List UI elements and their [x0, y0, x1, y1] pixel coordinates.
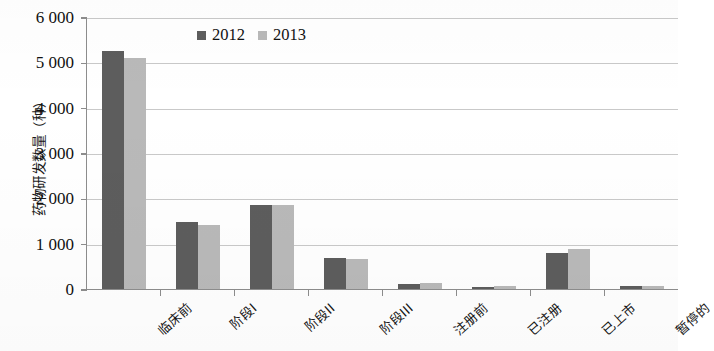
x-axis-label-1: 阶段I: [225, 298, 261, 333]
legend-label-2012: 2012: [212, 27, 245, 44]
x-axis-label-5: 已注册: [523, 298, 565, 339]
x-axis-label-0: 临床前: [153, 298, 195, 339]
x-axis-label-3: 阶段III: [375, 298, 417, 338]
x-axis-label-7: 暂停的: [671, 298, 713, 339]
bar-2012: [250, 205, 272, 289]
legend-item-2013: 2013: [258, 27, 306, 44]
legend-swatch-2013-icon: [258, 31, 267, 40]
bar-group: [605, 18, 679, 289]
y-axis-tick-label: 0: [66, 280, 75, 300]
x-axis-label-2: 阶段II: [300, 298, 339, 335]
bar-2012: [102, 51, 124, 289]
y-axis-tick-labels: 01 0002 0003 0004 0005 0006 000: [0, 0, 82, 351]
y-axis-tick-label: 2 000: [36, 189, 74, 209]
y-axis-tick-label: 6 000: [36, 8, 74, 28]
bar-group: [383, 18, 457, 289]
bar-2013: [568, 249, 590, 289]
bar-2012: [324, 258, 346, 289]
bar-2012: [472, 287, 494, 289]
legend-item-2012: 2012: [197, 27, 245, 44]
x-axis-category-labels: 临床前阶段I阶段II阶段III注册前已注册已上市暂停的: [86, 292, 678, 351]
bar-group: [531, 18, 605, 289]
bar-group: [161, 18, 235, 289]
bar-group: [87, 18, 161, 289]
bar-group: [309, 18, 383, 289]
bar-2012: [546, 253, 568, 289]
bar-2013: [272, 205, 294, 289]
bar-2013: [642, 286, 664, 289]
x-axis-label-6: 已上市: [597, 298, 639, 339]
x-axis-label-4: 注册前: [449, 298, 491, 339]
bar-2013: [198, 225, 220, 289]
bar-2013: [124, 58, 146, 289]
y-axis-tick-label: 4 000: [36, 99, 74, 119]
y-axis-tick-label: 3 000: [36, 144, 74, 164]
bar-2012: [398, 284, 420, 289]
legend-label-2013: 2013: [273, 27, 306, 44]
bar-2012: [176, 222, 198, 289]
bar-2013: [420, 283, 442, 289]
bar-2013: [494, 286, 516, 289]
chart-legend: 2012 2013: [197, 27, 306, 44]
bar-group: [457, 18, 531, 289]
y-axis-tick-label: 1 000: [36, 235, 74, 255]
bar-2012: [620, 286, 642, 289]
legend-swatch-2012-icon: [197, 31, 206, 40]
y-axis-tick-label: 5 000: [36, 53, 74, 73]
bar-group: [235, 18, 309, 289]
plot-area: [86, 18, 678, 290]
bar-2013: [346, 259, 368, 289]
